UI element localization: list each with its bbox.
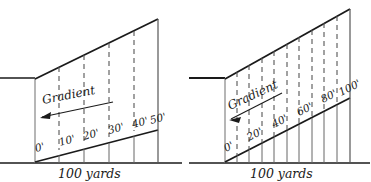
- gradient-label: Gradient: [41, 83, 97, 107]
- rise-label: 80': [318, 87, 338, 105]
- baseline-label: 100 yards: [250, 166, 313, 181]
- gradient-arrow-head-icon: [40, 112, 51, 119]
- right-panel: Gradient 0' 20' 40' 60' 80' 100' 100 yar…: [185, 0, 371, 182]
- gradient-arrow-head-icon: [229, 117, 241, 123]
- left-panel: Gradient 0' 10' 20' 30' 40' 50' 100 yard…: [0, 0, 186, 182]
- rise-label: 60': [294, 100, 314, 118]
- rise-label: 20': [244, 125, 265, 144]
- rise-label: 0': [33, 140, 45, 154]
- rise-label: 40': [269, 112, 290, 131]
- rise-label: 0': [221, 139, 235, 154]
- right-panel-drawing: Gradient 0' 20' 40' 60' 80' 100' 100 yar…: [185, 0, 371, 182]
- baseline-label: 100 yards: [58, 166, 121, 181]
- rise-label: 50': [148, 110, 167, 126]
- rise-label: 20': [80, 126, 100, 142]
- slope-top-line: [35, 19, 158, 79]
- diagram-canvas: Gradient 0' 10' 20' 30' 40' 50' 100 yard…: [0, 0, 371, 182]
- rise-label: 10': [57, 132, 76, 148]
- rise-label: 30': [106, 120, 125, 136]
- rise-label: 40': [129, 114, 149, 130]
- left-panel-drawing: Gradient 0' 10' 20' 30' 40' 50' 100 yard…: [0, 0, 186, 182]
